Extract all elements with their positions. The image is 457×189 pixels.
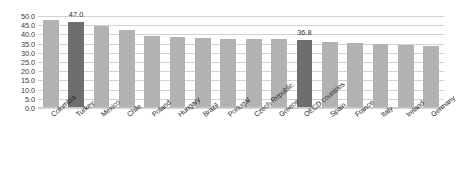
bar — [43, 20, 59, 108]
plot-area: 47.036.8 — [38, 16, 444, 108]
y-axis-tick-label: 35.0 — [21, 39, 35, 48]
bar — [144, 36, 160, 108]
category-slot: Poland — [140, 110, 165, 180]
category-slot: Italy — [368, 110, 393, 180]
bar-highlighted — [297, 40, 313, 108]
bar-slot — [368, 16, 393, 108]
y-axis-tick-label: 10.0 — [21, 85, 35, 94]
bar — [347, 43, 363, 108]
y-axis-tick-label: 5.0 — [25, 94, 35, 103]
bar-value-label: 47.0 — [69, 10, 83, 19]
category-slot: Chile — [114, 110, 139, 180]
bar-slot: 47.0 — [63, 16, 88, 108]
bar-value-label: 36.8 — [297, 28, 311, 37]
y-axis-tick-label: 20.0 — [21, 67, 35, 76]
category-slot: Germany — [419, 110, 444, 180]
bar-slot — [190, 16, 215, 108]
category-slot: Colombia — [38, 110, 63, 180]
category-slot: Hungary — [165, 110, 190, 180]
category-slot: Ireland — [393, 110, 418, 180]
y-axis-tick-label: 15.0 — [21, 76, 35, 85]
bar-slot — [393, 16, 418, 108]
category-slot: Portugal — [216, 110, 241, 180]
bar-slot — [241, 16, 266, 108]
bar — [423, 46, 439, 108]
bar-slot — [165, 16, 190, 108]
bar — [220, 39, 236, 108]
bar-slot — [419, 16, 444, 108]
bar-slot — [216, 16, 241, 108]
y-axis-tick-label: 45.0 — [21, 21, 35, 30]
bar-slot: 36.8 — [292, 16, 317, 108]
bar — [398, 45, 414, 108]
category-slot: Czech Republic — [241, 110, 266, 180]
category-slot: France — [343, 110, 368, 180]
y-axis-tick-label: 25.0 — [21, 58, 35, 67]
bar — [94, 26, 110, 108]
y-axis-tick-label: 50.0 — [21, 12, 35, 21]
bar-slot — [140, 16, 165, 108]
category-slot: Mexico — [89, 110, 114, 180]
bar-slot — [343, 16, 368, 108]
bar — [119, 30, 135, 108]
category-slot: OECD countries — [292, 110, 317, 180]
category-labels: ColombiaTurkeyMexicoChilePolandHungaryBr… — [38, 110, 444, 180]
bars-container: 47.036.8 — [38, 16, 444, 108]
y-axis: 0.05.010.015.020.025.030.035.040.045.050… — [0, 16, 35, 108]
category-slot: Brazil — [190, 110, 215, 180]
category-slot: Spain — [317, 110, 342, 180]
y-axis-tick-label: 30.0 — [21, 48, 35, 57]
bar-slot — [38, 16, 63, 108]
category-slot: Greece — [266, 110, 291, 180]
bar-slot — [89, 16, 114, 108]
y-axis-tick-label: 0.0 — [25, 104, 35, 113]
category-slot: Turkey — [63, 110, 88, 180]
y-axis-tick-label: 40.0 — [21, 30, 35, 39]
bar-slot — [114, 16, 139, 108]
bar — [170, 37, 186, 108]
bar — [373, 44, 389, 108]
